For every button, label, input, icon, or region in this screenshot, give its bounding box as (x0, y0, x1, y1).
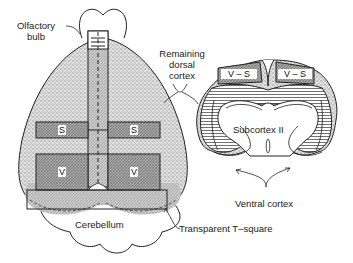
remaining-dorsal-cortex-line2: dorsal (152, 59, 212, 70)
transparent-t-square-label: Transparent T–square (179, 223, 272, 234)
remaining-dorsal-cortex-line1: Remaining (152, 48, 212, 59)
olfactory-bulb-label-line1: Olfactory (8, 20, 64, 31)
brain-dissection-diagram: Olfactory bulb Remaining dorsal cortex S… (0, 0, 353, 263)
region-v-left-label: V (58, 167, 66, 177)
region-s-left-label: S (58, 125, 66, 135)
remaining-dorsal-cortex-label: Remaining dorsal cortex (152, 48, 212, 81)
region-s-right-label: S (130, 125, 138, 135)
cerebellum-label: Cerebellum (75, 219, 124, 230)
region-vs-left-label: V – S (221, 69, 257, 79)
remaining-dorsal-cortex-line3: cortex (152, 70, 212, 81)
olfactory-bulb-label-line2: bulb (8, 31, 64, 42)
region-vs-right-label: V – S (278, 69, 312, 79)
subcortex-label: Subcortex II (233, 124, 284, 135)
ventral-cortex-label: Ventral cortex (235, 198, 293, 209)
dorsal-brain-view (19, 9, 188, 253)
olfactory-bulb-label: Olfactory bulb (8, 20, 64, 42)
region-v-right-label: V (130, 167, 138, 177)
